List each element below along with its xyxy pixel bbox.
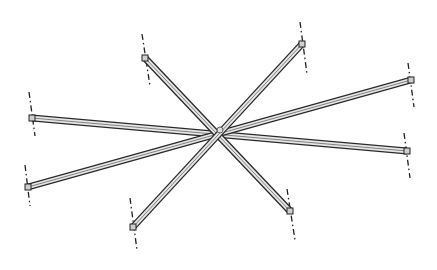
centerline-cl-right-lower: [404, 133, 410, 178]
centerline-cl-left: [29, 92, 35, 136]
beam-frame-drawing: [0, 0, 437, 270]
beam-end-cap: [408, 77, 414, 83]
beam-end-cap: [142, 55, 148, 61]
center-hub: [217, 127, 223, 133]
beam-end-cap: [287, 208, 293, 214]
beam-end-cap: [404, 148, 410, 154]
beam-end-cap: [130, 224, 136, 230]
beam-end-cap: [25, 184, 31, 190]
beam-group: [25, 41, 414, 230]
centerline-cl-right-upper: [408, 63, 414, 107]
beam-end-cap: [299, 41, 305, 47]
beam-end-cap: [29, 115, 35, 121]
